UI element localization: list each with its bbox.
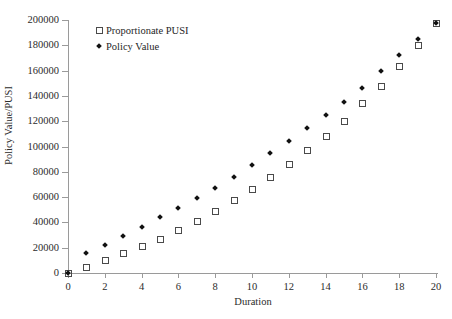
- x-axis-tick: [326, 273, 327, 278]
- data-point-proportionate-pusi: [267, 174, 274, 181]
- data-point-policy-value: [341, 99, 347, 105]
- x-axis-line: [68, 273, 438, 274]
- scatter-chart: 0200004000060000800001000001200001400001…: [0, 0, 452, 319]
- data-point-proportionate-pusi: [194, 218, 201, 225]
- x-axis-tick-label: 6: [163, 281, 193, 292]
- x-axis-tick-label: 18: [384, 281, 414, 292]
- x-axis-tick: [289, 273, 290, 278]
- data-point-policy-value: [212, 185, 218, 191]
- data-point-policy-value: [268, 151, 274, 157]
- data-point-proportionate-pusi: [231, 197, 238, 204]
- data-point-policy-value: [84, 250, 90, 256]
- y-axis-tick-label: 20000: [3, 243, 59, 254]
- x-axis-tick-label: 14: [311, 281, 341, 292]
- x-axis-tick: [399, 273, 400, 278]
- x-axis-tick-label: 0: [53, 281, 83, 292]
- data-point-proportionate-pusi: [212, 208, 219, 215]
- data-point-proportionate-pusi: [286, 161, 293, 168]
- data-point-policy-value: [231, 174, 237, 180]
- x-axis-tick: [252, 273, 253, 278]
- x-axis-tick-label: 20: [421, 281, 451, 292]
- data-point-proportionate-pusi: [341, 118, 348, 125]
- data-point-proportionate-pusi: [304, 147, 311, 154]
- x-axis-tick-label: 16: [347, 281, 377, 292]
- data-point-policy-value: [194, 195, 200, 201]
- x-axis-tick-label: 8: [200, 281, 230, 292]
- data-point-proportionate-pusi: [102, 257, 109, 264]
- data-point-proportionate-pusi: [378, 83, 385, 90]
- data-point-proportionate-pusi: [359, 100, 366, 107]
- data-point-policy-value: [120, 233, 126, 239]
- x-axis-tick-label: 4: [127, 281, 157, 292]
- data-point-policy-value: [396, 53, 402, 59]
- x-axis-tick: [215, 273, 216, 278]
- y-axis-tick-label: 180000: [3, 40, 59, 51]
- data-point-policy-value: [360, 85, 366, 91]
- x-axis-tick: [142, 273, 143, 278]
- data-point-policy-value: [286, 138, 292, 144]
- data-point-policy-value: [102, 242, 108, 248]
- x-axis-tick: [436, 273, 437, 278]
- x-axis-tick-label: 12: [274, 281, 304, 292]
- data-point-proportionate-pusi: [157, 236, 164, 243]
- data-point-proportionate-pusi: [396, 63, 403, 70]
- data-point-proportionate-pusi: [139, 243, 146, 250]
- x-axis-title: Duration: [68, 296, 438, 307]
- data-point-proportionate-pusi: [249, 186, 256, 193]
- data-point-policy-value: [323, 112, 329, 118]
- y-axis-tick-label: 40000: [3, 217, 59, 228]
- data-point-policy-value: [415, 36, 421, 42]
- data-point-proportionate-pusi: [175, 227, 182, 234]
- data-point-proportionate-pusi: [323, 133, 330, 140]
- x-axis-tick: [105, 273, 106, 278]
- data-point-policy-value: [378, 68, 384, 74]
- data-point-policy-value: [304, 125, 310, 131]
- data-point-policy-value: [176, 205, 182, 211]
- y-axis-title: Policy Value/PUSI: [3, 66, 14, 186]
- data-point-policy-value: [139, 224, 145, 230]
- y-axis-tick-label: 200000: [3, 15, 59, 26]
- x-axis-tick-label: 10: [237, 281, 267, 292]
- data-point-proportionate-pusi: [415, 42, 422, 49]
- data-point-policy-value: [157, 214, 163, 220]
- data-point-policy-value: [249, 163, 255, 169]
- y-axis-tick-label: 60000: [3, 192, 59, 203]
- x-axis-tick: [178, 273, 179, 278]
- x-axis-tick-label: 2: [90, 281, 120, 292]
- y-axis-tick-label: 0: [3, 268, 59, 279]
- plot-area: [68, 20, 436, 273]
- data-point-proportionate-pusi: [83, 264, 90, 271]
- x-axis-tick: [362, 273, 363, 278]
- data-point-proportionate-pusi: [120, 250, 127, 257]
